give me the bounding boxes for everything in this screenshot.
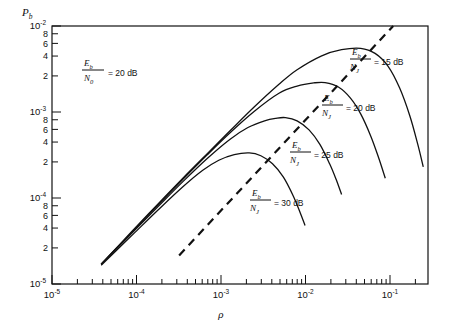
y-tick-label: 4 <box>43 51 48 61</box>
annotation-eb-n0-denominator: N0 <box>83 73 94 85</box>
annotation-15db-denominator: NJ <box>349 62 360 74</box>
chart-svg: 10-2 8 6 4 2 10-3 8 6 4 2 10-4 8 6 4 2 1… <box>0 0 449 329</box>
y-tick-label: 4 <box>43 223 48 233</box>
y-axis-tick-labels: 10-2 8 6 4 2 10-3 8 6 4 2 10-4 8 6 4 2 1… <box>30 19 48 289</box>
y-tick-label: 6 <box>43 211 48 221</box>
annotation-25db-denominator: NJ <box>289 155 300 167</box>
x-tick-label: 10-3 <box>213 288 230 300</box>
y-tick-label: 2 <box>43 71 48 81</box>
y-tick-label: 8 <box>43 115 48 125</box>
x-axis-tick-labels: 10-5 10-4 10-3 10-2 10-1 <box>44 288 399 300</box>
annotation-eb-n0: Eb N0 = 20 dB <box>82 58 138 85</box>
curve-30db <box>101 153 305 265</box>
dashed-locus-line <box>179 26 393 255</box>
y-tick-label: 10-5 <box>30 277 47 289</box>
plot-frame <box>52 26 428 284</box>
y-tick-label: 8 <box>43 201 48 211</box>
x-tick-label: 10-5 <box>44 288 61 300</box>
annotation-20db-denominator: NJ <box>321 108 332 120</box>
annotation-25db-value: = 25 dB <box>314 150 344 160</box>
y-tick-label: 6 <box>43 39 48 49</box>
y-tick-label: 2 <box>43 243 48 253</box>
annotation-30db-numerator: Eb <box>251 188 262 200</box>
y-tick-label: 2 <box>43 157 48 167</box>
annotation-20db-value: = 20 dB <box>346 103 376 113</box>
figure-container: 10-2 8 6 4 2 10-3 8 6 4 2 10-4 8 6 4 2 1… <box>0 0 449 329</box>
y-tick-label: 6 <box>43 125 48 135</box>
x-tick-label: 10-4 <box>128 288 145 300</box>
x-tick-label: 10-2 <box>297 288 314 300</box>
y-axis-title: Pb <box>21 6 33 21</box>
annotation-30db-denominator: NJ <box>249 203 260 215</box>
curve-20db <box>101 82 385 264</box>
y-axis-ticks <box>52 26 61 284</box>
annotation-curve-20db: Eb NJ = 20 dB <box>321 93 376 120</box>
x-axis-title: ρ <box>217 308 223 320</box>
annotation-15db-value: = 15 dB <box>374 57 404 67</box>
y-axis-title-text: Pb <box>21 6 33 21</box>
annotation-curve-15db: Eb NJ = 15 dB <box>349 47 404 74</box>
annotation-30db-value: = 30 dB <box>274 198 304 208</box>
annotation-20db-numerator: Eb <box>323 93 334 105</box>
annotation-eb-n0-value: = 20 dB <box>108 68 138 78</box>
data-curves <box>101 48 423 265</box>
y-tick-label: 4 <box>43 137 48 147</box>
x-axis-title-text: ρ <box>217 308 223 320</box>
annotation-curve-25db: Eb NJ = 25 dB <box>289 140 344 167</box>
annotation-curve-30db: Eb NJ = 30 dB <box>249 188 304 215</box>
x-tick-label: 10-1 <box>382 288 399 300</box>
y-tick-label: 8 <box>43 29 48 39</box>
x-axis-ticks <box>52 275 415 284</box>
annotation-eb-n0-numerator: Eb <box>83 58 94 70</box>
annotation-25db-numerator: Eb <box>291 140 302 152</box>
